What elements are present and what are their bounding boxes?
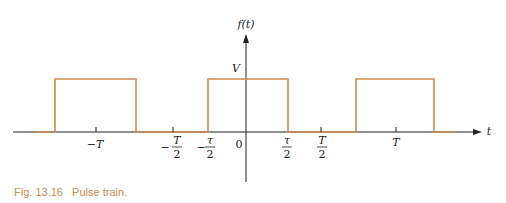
sign: − [160, 141, 169, 154]
denominator: 2 [207, 148, 214, 161]
y-axis-label: f(t) [236, 18, 254, 31]
figure-caption: Fig. 13.16 Pulse train. [14, 186, 127, 198]
origin-label: 0 [236, 138, 243, 151]
x-axis-label: t [487, 125, 492, 138]
t-axis-arrow-icon [473, 129, 482, 135]
numerator: T [318, 134, 327, 147]
tick-label-neg-T-half: − T 2 [160, 134, 182, 161]
f-axis-arrow-icon [243, 34, 249, 43]
denominator: 2 [174, 148, 181, 161]
denominator: 2 [319, 148, 326, 161]
numerator: τ [284, 134, 291, 147]
numerator: T [173, 134, 182, 147]
pulse-train-diagram: f(t) t V 0 −T − T 2 − τ 2 τ 2 T 2 T [0, 0, 506, 203]
tick-label-T-half: T 2 [317, 134, 327, 161]
tick-label-neg-T: −T [87, 138, 105, 151]
tick-label-tau-half: τ 2 [282, 134, 292, 161]
tick-label-T: T [392, 136, 401, 149]
tick-label-neg-tau-half: − τ 2 [196, 134, 215, 161]
amplitude-label: V [232, 62, 241, 75]
sign: − [196, 141, 205, 154]
denominator: 2 [284, 148, 291, 161]
numerator: τ [207, 134, 214, 147]
